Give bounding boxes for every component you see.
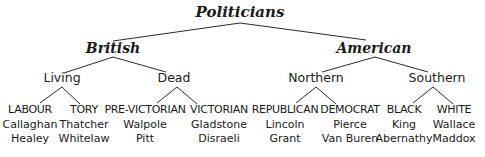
leaf-member: Maddox: [432, 132, 475, 147]
edge-dead-victorian: [177, 87, 197, 104]
leaf-member: Gladstone: [190, 118, 248, 133]
leaf-category-label: LABOUR: [3, 103, 58, 118]
node-dead: Dead: [158, 70, 191, 85]
edge-politicians-british: [113, 23, 240, 41]
edge-southern-white: [433, 87, 453, 104]
leaf-member: Wallace: [432, 118, 475, 133]
edge-dead-previctorian: [157, 87, 177, 103]
leaf-white: WHITE Wallace Maddox: [432, 103, 475, 147]
leaf-democrat: DEMOCRAT Pierce Van Buren: [320, 103, 379, 147]
leaf-category-label: TORY: [59, 103, 110, 118]
leaf-member: Van Buren: [320, 132, 379, 147]
leaf-category-label: DEMOCRAT: [320, 103, 379, 118]
edge-living-tory: [62, 87, 80, 104]
leaf-category-label: WHITE: [432, 103, 475, 118]
leaf-victorian: VICTORIAN Gladstone Disraeli: [190, 103, 248, 147]
leaf-member: Abernathy: [375, 132, 432, 147]
node-american: American: [336, 40, 411, 56]
leaf-labour: LABOUR Callaghan Healey: [3, 103, 58, 147]
edge-southern-black: [413, 87, 433, 103]
edge-politicians-american: [240, 23, 366, 40]
leaf-member: Whitelaw: [59, 132, 110, 147]
node-british: British: [86, 40, 140, 56]
leaf-tory: TORY Thatcher Whitelaw: [59, 103, 110, 147]
edge-northern-republican: [296, 87, 316, 103]
node-northern: Northern: [288, 70, 344, 85]
leaf-member: Lincoln: [252, 118, 319, 133]
edge-northern-democrat: [316, 87, 336, 104]
leaf-member: Healey: [3, 132, 58, 147]
leaf-black: BLACK King Abernathy: [375, 103, 432, 147]
leaf-member: Thatcher: [59, 118, 110, 133]
edge-living-labour: [40, 87, 62, 103]
leaf-category-label: VICTORIAN: [190, 103, 248, 118]
leaf-member: Pitt: [104, 132, 185, 147]
politicians-tree-diagram: Politicians British American Living Dead…: [0, 0, 485, 157]
leaf-category-label: BLACK: [375, 103, 432, 118]
leaf-republican: REPUBLICAN Lincoln Grant: [252, 103, 319, 147]
leaf-member: Pierce: [320, 118, 379, 133]
leaf-member: Grant: [252, 132, 319, 147]
node-living: Living: [43, 70, 80, 85]
leaf-pre-victorian: PRE-VICTORIAN Walpole Pitt: [104, 103, 185, 147]
leaf-member: Disraeli: [190, 132, 248, 147]
node-politicians: Politicians: [196, 3, 285, 21]
node-southern: Southern: [409, 70, 466, 85]
leaf-member: King: [375, 118, 432, 133]
leaf-member: Callaghan: [3, 118, 58, 133]
leaf-category-label: PRE-VICTORIAN: [104, 103, 185, 118]
leaf-member: Walpole: [104, 118, 185, 133]
leaf-category-label: REPUBLICAN: [252, 103, 319, 118]
